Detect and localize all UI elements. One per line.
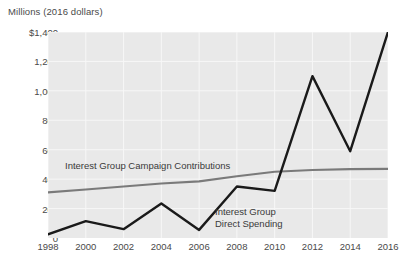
x-tick-2010: 2010	[264, 241, 285, 252]
series-line-interest-group-direct-spending	[48, 32, 388, 234]
x-tick-2012: 2012	[302, 241, 323, 252]
series-label-direct-spending: Interest Group Direct Spending	[215, 206, 283, 229]
series-line-interest-group-campaign-contributions	[48, 169, 388, 193]
x-tick-2008: 2008	[226, 241, 247, 252]
series-label-campaign-contributions: Interest Group Campaign Contributions	[65, 160, 230, 172]
x-tick-2006: 2006	[189, 241, 210, 252]
x-tick-2004: 2004	[151, 241, 172, 252]
x-tick-2016: 2016	[377, 241, 398, 252]
y-axis-title: Millions (2016 dollars)	[8, 6, 103, 17]
x-tick-2002: 2002	[113, 241, 134, 252]
series-label-direct-spending-line2: Direct Spending	[215, 218, 283, 229]
x-tick-2014: 2014	[340, 241, 361, 252]
chart-container: Millions (2016 dollars) $1,4001,2001,000…	[0, 0, 400, 262]
x-tick-2000: 2000	[75, 241, 96, 252]
series-lines	[48, 32, 388, 234]
series-label-direct-spending-line1: Interest Group	[215, 206, 276, 217]
x-tick-1998: 1998	[37, 241, 58, 252]
